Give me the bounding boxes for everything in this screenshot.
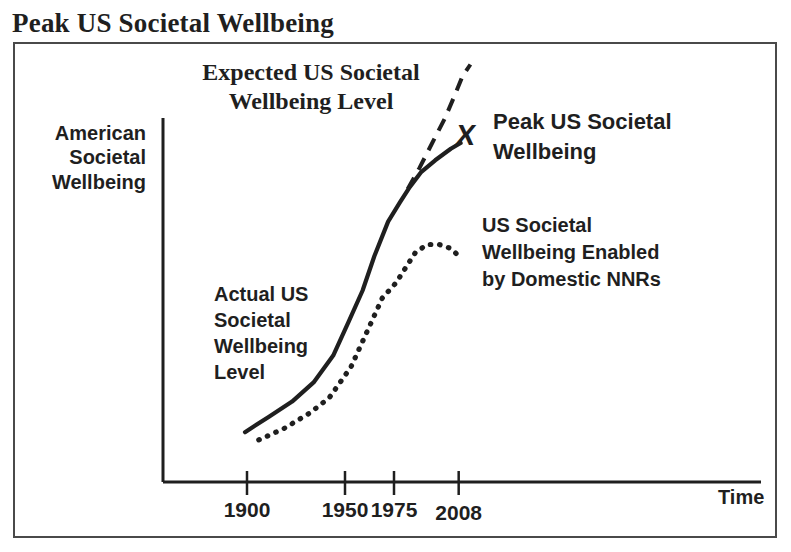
label-line: Expected US Societal bbox=[195, 58, 427, 87]
label-line: US Societal bbox=[482, 212, 661, 239]
label-line: Peak US Societal bbox=[493, 107, 672, 137]
label-line: Wellbeing Level bbox=[195, 87, 427, 116]
label-line: Wellbeing bbox=[493, 137, 672, 167]
label-line: Level bbox=[214, 359, 308, 385]
tick-label: 1900 bbox=[224, 498, 271, 521]
label-line: Wellbeing Enabled bbox=[482, 239, 661, 266]
y-axis-label: American Societal Wellbeing bbox=[36, 121, 146, 194]
label-line: Actual US bbox=[214, 281, 308, 307]
nnr-series-label: US Societal Wellbeing Enabled by Domesti… bbox=[482, 212, 661, 294]
label-line: by Domestic NNRs bbox=[482, 266, 661, 293]
peak-annotation-label: Peak US Societal Wellbeing bbox=[493, 107, 672, 166]
actual-series-label: Actual US Societal Wellbeing Level bbox=[214, 281, 308, 385]
tick-label: 1975 bbox=[371, 498, 418, 521]
label-line: Wellbeing bbox=[214, 333, 308, 359]
expected-series-label: Expected US Societal Wellbeing Level bbox=[195, 58, 427, 117]
label-line: Societal bbox=[214, 307, 308, 333]
tick-label: 1950 bbox=[322, 498, 369, 521]
diagram-page: Peak US Societal Wellbeing 1900195019752… bbox=[0, 0, 791, 552]
tick-label: 2008 bbox=[435, 501, 482, 524]
x-axis-label: Time bbox=[718, 486, 764, 509]
label-line: Societal bbox=[36, 145, 146, 169]
label-line: Wellbeing bbox=[36, 170, 146, 194]
label-line: American bbox=[36, 121, 146, 145]
x-axis-ticks: 1900195019752008 bbox=[224, 471, 483, 524]
